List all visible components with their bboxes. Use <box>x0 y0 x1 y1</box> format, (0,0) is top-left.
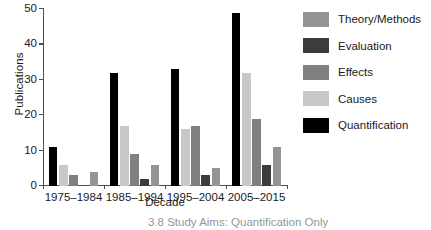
bar-group <box>104 9 165 186</box>
bar <box>120 126 129 186</box>
bar <box>130 154 139 186</box>
legend-swatch <box>303 118 329 133</box>
x-tick-mark <box>287 185 288 189</box>
bar <box>201 175 210 186</box>
x-tick-mark <box>165 185 166 189</box>
bar <box>151 165 160 186</box>
legend-swatch <box>303 12 329 27</box>
bar <box>181 129 190 186</box>
bar-group <box>226 9 287 186</box>
bar <box>171 69 180 186</box>
legend-label: Evaluation <box>338 40 392 52</box>
legend-swatch <box>303 91 329 106</box>
bar <box>273 147 282 186</box>
y-tick-label: 0 <box>31 179 37 191</box>
bar <box>262 165 271 186</box>
y-tick-label: 40 <box>24 37 37 49</box>
x-tick-mark <box>43 185 44 189</box>
x-tick-mark <box>104 185 105 189</box>
bar <box>252 119 261 186</box>
y-tick-label: 50 <box>24 2 37 14</box>
y-tick-label: 10 <box>24 144 37 156</box>
legend-item[interactable]: Theory/Methods <box>303 6 431 33</box>
legend-swatch <box>303 65 329 80</box>
x-axis-label: Decade <box>43 196 287 208</box>
x-tick-mark <box>226 185 227 189</box>
legend-item[interactable]: Causes <box>303 86 431 113</box>
legend-label: Theory/Methods <box>338 13 421 25</box>
bar-group <box>43 9 104 186</box>
figure-caption: 3.8 Study Aims: Quantification Only <box>148 216 328 228</box>
plot-axes: 01020304050 1975–19841985–19941995–20042… <box>43 8 287 186</box>
bar <box>110 73 119 186</box>
legend-item[interactable]: Evaluation <box>303 33 431 60</box>
legend-label: Effects <box>338 66 373 78</box>
y-axis-label: Publications <box>13 34 25 134</box>
bar <box>140 179 149 186</box>
bar <box>90 172 99 186</box>
bar-chart: Publications 01020304050 1975–19841985–1… <box>0 0 290 212</box>
bar <box>191 126 200 186</box>
bar <box>232 13 241 186</box>
bar <box>69 175 78 186</box>
legend-label: Quantification <box>338 119 408 131</box>
bar <box>59 165 68 186</box>
bar <box>212 168 221 186</box>
chart-legend: Theory/MethodsEvaluationEffectsCausesQua… <box>303 6 431 139</box>
figure-container: Publications 01020304050 1975–19841985–1… <box>0 0 431 230</box>
legend-label: Causes <box>338 93 377 105</box>
legend-swatch <box>303 38 329 53</box>
y-tick-label: 20 <box>24 108 37 120</box>
y-tick-label: 30 <box>24 73 37 85</box>
bar <box>242 73 251 186</box>
bar-group <box>165 9 226 186</box>
bar <box>49 147 58 186</box>
legend-item[interactable]: Effects <box>303 59 431 86</box>
legend-item[interactable]: Quantification <box>303 112 431 139</box>
